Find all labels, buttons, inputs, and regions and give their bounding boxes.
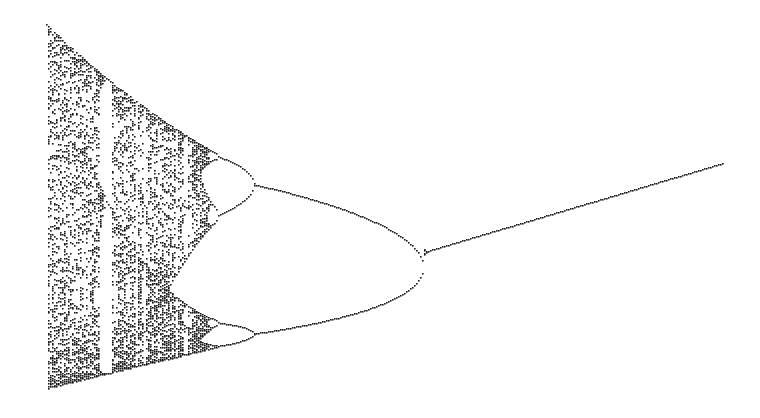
bifurcation-plot [0, 0, 760, 418]
